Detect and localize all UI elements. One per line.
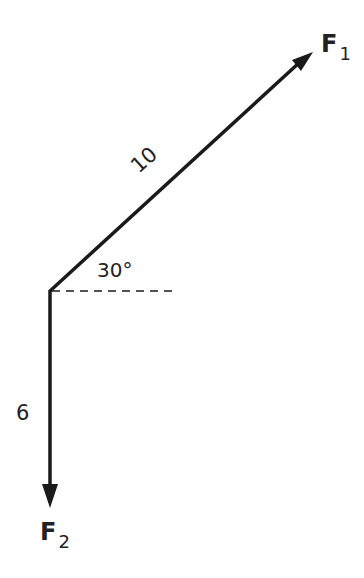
angle-label: 30° xyxy=(97,258,132,282)
f2-magnitude-label: 6 xyxy=(16,401,29,425)
f2-symbol: F xyxy=(40,518,56,546)
f1-vector-line xyxy=(50,62,300,291)
f1-subscript: 1 xyxy=(339,43,350,64)
force-diagram xyxy=(0,0,364,578)
f2-subscript: 2 xyxy=(58,531,69,552)
f1-label: F1 xyxy=(321,30,351,58)
f2-label: F2 xyxy=(40,518,70,546)
f2-arrowhead-icon xyxy=(42,484,58,508)
f1-symbol: F xyxy=(321,30,337,58)
